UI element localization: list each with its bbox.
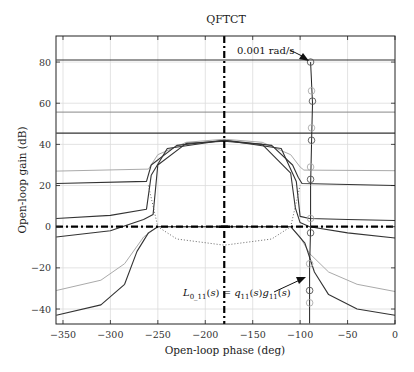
grid [56, 36, 395, 324]
loop-markers [306, 59, 315, 306]
series-group [56, 60, 395, 323]
x-tick-label: −350 [50, 329, 76, 340]
arrowhead-icon [296, 277, 306, 284]
y-tick-label: 0 [45, 221, 51, 232]
x-tick-label: −300 [97, 329, 123, 340]
series-line [310, 62, 313, 323]
annotation-frequency-text: 0.001 rad/s [237, 45, 294, 56]
x-tick-label: 0 [392, 329, 398, 340]
plot-frame [56, 36, 395, 324]
x-tick-label: −200 [192, 329, 218, 340]
annotation-frequency: 0.001 rad/s [237, 45, 309, 61]
x-tick-label: −250 [145, 329, 171, 340]
y-tick-label: 80 [39, 57, 51, 68]
x-tick-label: −50 [338, 329, 358, 340]
series-line [56, 227, 395, 316]
y-axis-label: Open-loop gain (dB) [16, 127, 28, 234]
y-tick-label: 60 [39, 98, 51, 109]
x-tick-label: −100 [287, 329, 313, 340]
y-tick-label: 20 [39, 180, 51, 191]
nichols-chart: QFTCT −350−300−250−200−150−100−500 −40−2… [0, 0, 414, 372]
y-tick-label: 40 [39, 139, 51, 150]
series-line [56, 140, 395, 220]
y-tick-label: −40 [31, 304, 51, 315]
series-line [56, 141, 395, 238]
reference-lines [56, 36, 395, 324]
series-line [56, 227, 395, 292]
chart-title: QFTCT [206, 13, 246, 26]
annotation-loop: L0_11(s) = q11(s)g11(s) [182, 277, 306, 301]
y-tick-label: −20 [31, 262, 51, 273]
x-axis-label: Open-loop phase (deg) [165, 344, 285, 356]
series-line [56, 140, 395, 185]
x-tick-label: −150 [240, 329, 266, 340]
annotation-loop-text: L0_11(s) = q11(s)g11(s) [182, 287, 291, 301]
